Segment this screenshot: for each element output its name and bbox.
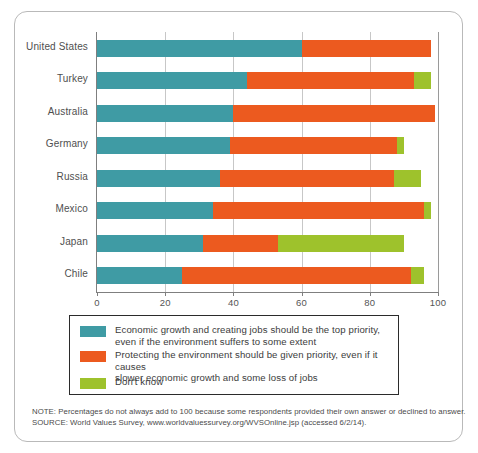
category-label: Japan (60, 236, 88, 247)
bar-segment[interactable] (247, 72, 414, 89)
legend-item: Don't know (80, 376, 392, 389)
legend-label: Economic growth and creating jobs should… (115, 324, 380, 347)
bar-row[interactable]: Germany (97, 137, 438, 154)
chart-footnotes: NOTE: Percentages do not always add to 1… (32, 406, 452, 428)
bar-segment[interactable] (411, 267, 425, 284)
category-label: Turkey (57, 73, 88, 84)
x-tick (438, 292, 439, 296)
plot-right-border (438, 32, 439, 292)
legend-swatch-dont-know (80, 378, 106, 389)
gridline (165, 32, 166, 292)
bar-segment[interactable] (97, 170, 220, 187)
bar-segment[interactable] (278, 235, 404, 252)
bar-row[interactable]: Russia (97, 170, 438, 187)
gridline (233, 32, 234, 292)
bar-segment[interactable] (302, 40, 432, 57)
bar-row[interactable]: Chile (97, 267, 438, 284)
bar-row[interactable]: Australia (97, 105, 438, 122)
legend-label-line: Don't know (115, 376, 163, 387)
footnote-note: NOTE: Percentages do not always add to 1… (32, 406, 452, 417)
category-label: Germany (46, 138, 88, 149)
chart-legend: Economic growth and creating jobs should… (69, 315, 399, 395)
bar-segment[interactable] (97, 235, 203, 252)
bar-row[interactable]: United States (97, 40, 438, 57)
x-tick (165, 292, 166, 296)
bar-segment[interactable] (97, 202, 213, 219)
bar-segment[interactable] (97, 72, 247, 89)
legend-swatch-protect-environment (80, 351, 106, 362)
gridline (370, 32, 371, 292)
category-label: United States (26, 41, 88, 52)
chart-plot-area: 020406080100 United StatesTurkeyAustrali… (97, 32, 438, 292)
x-tick-label: 20 (145, 297, 185, 308)
x-tick-label: 40 (213, 297, 253, 308)
bar-segment[interactable] (233, 105, 434, 122)
x-tick-label: 0 (77, 297, 117, 308)
bar-segment[interactable] (414, 72, 431, 89)
chart-plot-wrapper: 020406080100 United StatesTurkeyAustrali… (15, 12, 464, 302)
x-tick (233, 292, 234, 296)
category-label: Australia (48, 106, 88, 117)
bar-segment[interactable] (97, 40, 302, 57)
category-label: Chile (64, 268, 88, 279)
bar-segment[interactable] (203, 235, 278, 252)
x-tick (370, 292, 371, 296)
legend-label: Don't know (115, 376, 163, 388)
bar-segment[interactable] (230, 137, 397, 154)
bar-segment[interactable] (97, 105, 233, 122)
x-tick-label: 60 (282, 297, 322, 308)
category-label: Russia (57, 171, 88, 182)
legend-label-line: Protecting the environment should be giv… (115, 349, 378, 372)
bar-segment[interactable] (220, 170, 394, 187)
y-axis-line (96, 32, 97, 292)
x-axis-line (96, 292, 439, 293)
legend-item: Economic growth and creating jobs should… (80, 324, 392, 347)
x-tick (97, 292, 98, 296)
bar-segment[interactable] (424, 202, 431, 219)
legend-swatch-economic-growth (80, 326, 106, 337)
gridline (302, 32, 303, 292)
x-tick-label: 100 (418, 297, 458, 308)
footnote-source: SOURCE: World Values Survey, www.worldva… (32, 417, 452, 428)
bar-segment[interactable] (394, 170, 421, 187)
x-tick-label: 80 (350, 297, 390, 308)
x-tick (302, 292, 303, 296)
bar-segment[interactable] (97, 267, 182, 284)
bar-row[interactable]: Turkey (97, 72, 438, 89)
bar-segment[interactable] (397, 137, 404, 154)
legend-label-line: Economic growth and creating jobs should… (115, 324, 380, 335)
figure-frame: 020406080100 United StatesTurkeyAustrali… (14, 11, 463, 442)
bar-segment[interactable] (213, 202, 424, 219)
category-label: Mexico (55, 203, 88, 214)
bar-row[interactable]: Japan (97, 235, 438, 252)
bar-row[interactable]: Mexico (97, 202, 438, 219)
bar-segment[interactable] (182, 267, 410, 284)
legend-label-line: even if the environment suffers to some … (115, 336, 316, 347)
bar-segment[interactable] (97, 137, 230, 154)
